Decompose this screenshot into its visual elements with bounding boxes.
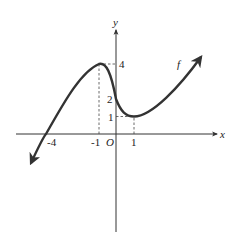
y-tick-4: 4: [119, 58, 125, 70]
y-tick-1: 1: [108, 111, 114, 123]
x-tick-neg4: -4: [47, 136, 57, 148]
origin-label: O: [106, 136, 114, 148]
x-tick-1: 1: [131, 136, 137, 148]
function-graph: y x O f -4 -1 1 4 2 1: [0, 0, 237, 247]
y-axis-label: y: [112, 16, 118, 28]
x-axis-label: x: [219, 128, 225, 140]
x-tick-neg1: -1: [91, 136, 100, 148]
function-label: f: [177, 58, 182, 70]
y-tick-2: 2: [107, 93, 113, 105]
